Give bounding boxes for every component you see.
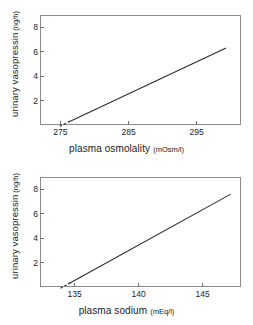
chart-panel-osmolality: plasma osmolality(mOsm/l) urinary vasopr…: [0, 0, 253, 163]
y-tick-label: 8: [26, 185, 38, 193]
y-axis-title-top: urinary vasopressin(ng/h): [4, 4, 22, 124]
figure-two-panel-scatter: plasma osmolality(mOsm/l) urinary vasopr…: [0, 0, 253, 325]
x-tick-mark: [202, 283, 203, 287]
series-solid: [69, 48, 226, 122]
plot-area-top: [40, 15, 241, 125]
y-tick-mark: [40, 27, 44, 28]
x-tick-mark: [196, 121, 197, 125]
plot-area-bottom: [40, 177, 241, 287]
y-tick-mark: [40, 238, 44, 239]
x-tick-mark: [138, 283, 139, 287]
y-tick-mark: [40, 189, 44, 190]
y-tick-mark: [40, 262, 44, 263]
x-tick-label: 295: [184, 128, 210, 137]
series-dashed: [60, 121, 70, 126]
x-tick-label: 140: [126, 290, 152, 299]
x-axis-title-bottom: plasma sodium(mEq/l): [0, 300, 253, 318]
y-axis-title-bottom: urinary vasopressin(ng/h): [4, 166, 22, 286]
y-tick-label: 4: [26, 72, 38, 80]
y-tick-mark: [40, 51, 44, 52]
y-axis-title-text: urinary vasopressin: [9, 33, 20, 117]
x-tick-label: 275: [47, 128, 73, 137]
y-tick-label: 4: [26, 234, 38, 242]
x-tick-label: 135: [62, 290, 88, 299]
x-axis-title-text: plasma osmolality: [69, 143, 150, 154]
x-tick-mark: [128, 121, 129, 125]
x-axis-title-text: plasma sodium: [79, 305, 148, 316]
series-solid: [68, 194, 231, 284]
y-tick-label: 2: [26, 97, 38, 105]
x-tick-mark: [60, 121, 61, 125]
y-axis-unit-text: (ng/h): [11, 11, 20, 31]
x-tick-label: 285: [116, 128, 142, 137]
y-tick-label: 2: [26, 259, 38, 267]
chart-panel-sodium: plasma sodium(mEq/l) urinary vasopressin…: [0, 162, 253, 325]
y-tick-mark: [40, 100, 44, 101]
x-axis-title-top: plasma osmolality(mOsm/l): [0, 138, 253, 156]
y-axis-unit-text: (ng/h): [11, 173, 20, 193]
y-tick-label: 6: [26, 48, 38, 56]
y-tick-mark: [40, 76, 44, 77]
x-axis-unit-text: (mOsm/l): [153, 145, 184, 154]
x-axis-unit-text: (mEq/l): [150, 307, 174, 316]
y-tick-label: 8: [26, 23, 38, 31]
y-tick-mark: [40, 213, 44, 214]
x-tick-mark: [74, 283, 75, 287]
y-tick-label: 6: [26, 210, 38, 218]
x-tick-label: 145: [190, 290, 216, 299]
series-dashed: [60, 283, 70, 289]
y-axis-title-text: urinary vasopressin: [9, 195, 20, 279]
